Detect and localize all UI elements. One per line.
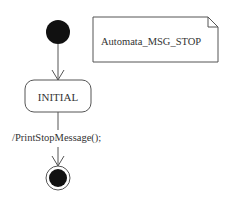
transition-state-to-final: /PrintStopMessage(); (12, 112, 101, 166)
note: Automata_MSG_STOP (93, 17, 218, 62)
transition-label: /PrintStopMessage(); (12, 132, 101, 144)
state-initial: INITIAL (25, 80, 91, 112)
transition-initial-to-state (52, 44, 64, 80)
note-text: Automata_MSG_STOP (101, 36, 201, 47)
initial-pseudostate (46, 20, 70, 44)
state-initial-label: INITIAL (38, 91, 79, 103)
final-state (46, 166, 70, 190)
state-diagram: INITIAL /PrintStopMessage(); Automata_MS… (0, 0, 231, 199)
